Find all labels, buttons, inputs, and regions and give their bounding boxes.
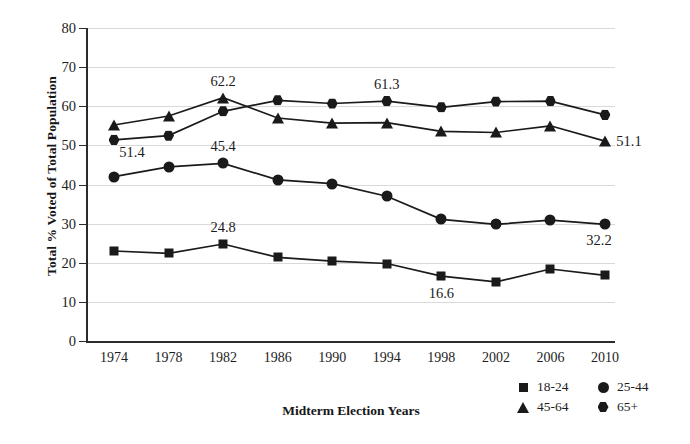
- legend-item-45-64[interactable]: 45-64: [516, 399, 596, 415]
- data-point-marker: [163, 111, 175, 122]
- x-tick-label: 1994: [373, 350, 401, 366]
- legend-label: 65+: [617, 399, 638, 415]
- data-point-marker: [218, 158, 229, 169]
- y-tick-label: 70: [62, 59, 77, 76]
- y-tick-mark: [79, 302, 86, 303]
- series-lines: [86, 28, 615, 343]
- y-tick-label: 0: [69, 333, 76, 350]
- data-point-marker: [328, 257, 337, 266]
- y-tick-mark: [79, 67, 86, 68]
- x-tick-label: 1982: [209, 350, 237, 366]
- x-tick-label: 1978: [155, 350, 183, 366]
- data-point-marker: [219, 239, 228, 248]
- series-line: [114, 244, 605, 282]
- x-tick-label: 1998: [427, 350, 455, 366]
- data-point-marker: [382, 259, 391, 268]
- y-tick-mark: [79, 145, 86, 146]
- data-point-marker: [546, 265, 555, 274]
- series-line: [114, 100, 605, 139]
- data-point-marker: [600, 219, 611, 230]
- data-point-marker: [273, 253, 282, 262]
- y-tick-mark: [79, 106, 86, 107]
- data-point-label: 51.4: [119, 143, 144, 160]
- data-point-marker: [163, 161, 174, 172]
- data-point-marker: [491, 277, 500, 286]
- x-tick-label: 1990: [318, 350, 346, 366]
- circle-marker-icon: [596, 382, 610, 393]
- legend-item-65plus[interactable]: 65+: [596, 399, 638, 415]
- x-tick-label: 1986: [264, 350, 292, 366]
- data-point-label: 51.1: [616, 133, 641, 150]
- legend-row: 18-2425-44: [516, 377, 690, 397]
- data-point-label: 24.8: [210, 218, 235, 235]
- data-point-marker: [490, 219, 501, 230]
- legend-label: 25-44: [617, 379, 649, 395]
- y-tick-label: 50: [62, 137, 77, 154]
- chart-legend: 18-2425-4445-6465+: [516, 377, 690, 417]
- data-point-marker: [327, 178, 338, 189]
- y-tick-mark: [79, 185, 86, 186]
- hexagon-marker-icon: [596, 402, 610, 413]
- y-tick-mark: [79, 224, 86, 225]
- y-tick-label: 40: [62, 176, 77, 193]
- legend-label: 18-24: [537, 379, 569, 395]
- data-point-label: 16.6: [429, 285, 454, 302]
- data-point-label: 32.2: [586, 232, 611, 249]
- y-tick-mark: [79, 341, 86, 342]
- x-tick-label: 2006: [536, 350, 564, 366]
- data-point-marker: [490, 127, 502, 138]
- chart-figure: Total % Voted of Total Population 010203…: [0, 0, 690, 444]
- data-point-marker: [164, 249, 173, 258]
- square-marker-icon: [516, 383, 530, 392]
- data-point-marker: [545, 215, 556, 226]
- data-point-marker: [437, 272, 446, 281]
- data-point-label: 62.2: [210, 72, 235, 89]
- triangle-marker-icon: [516, 402, 530, 413]
- y-tick-label: 10: [62, 293, 77, 310]
- plot-area: 01020304050607080 51.462.245.424.861.351…: [86, 28, 615, 343]
- data-point-marker: [381, 117, 393, 128]
- data-point-label: 61.3: [374, 76, 399, 93]
- legend-label: 45-64: [537, 399, 569, 415]
- series-line: [114, 98, 605, 142]
- x-tick-label: 2010: [591, 350, 619, 366]
- y-tick-label: 20: [62, 254, 77, 271]
- data-point-marker: [436, 214, 447, 225]
- x-tick-label: 1974: [100, 350, 128, 366]
- data-point-marker: [110, 247, 119, 256]
- data-point-label: 45.4: [210, 138, 235, 155]
- y-tick-mark: [79, 28, 86, 29]
- data-point-marker: [109, 171, 120, 182]
- series-line: [114, 163, 605, 224]
- data-point-marker: [601, 271, 610, 280]
- data-point-marker: [272, 174, 283, 185]
- y-axis-title: Total % Voted of Total Population: [44, 26, 60, 326]
- y-tick-label: 30: [62, 215, 77, 232]
- y-tick-label: 80: [62, 20, 77, 37]
- data-point-marker: [435, 126, 447, 137]
- legend-item-18-24[interactable]: 18-24: [516, 379, 596, 395]
- y-tick-label: 60: [62, 98, 77, 115]
- data-point-marker: [217, 92, 229, 103]
- y-tick-mark: [79, 263, 86, 264]
- data-point-marker: [544, 120, 556, 131]
- data-point-marker: [599, 136, 611, 147]
- x-tick-label: 2002: [482, 350, 510, 366]
- data-point-marker: [108, 120, 120, 131]
- data-point-marker: [381, 191, 392, 202]
- legend-row: 45-6465+: [516, 397, 690, 417]
- legend-item-25-44[interactable]: 25-44: [596, 379, 649, 395]
- data-point-marker: [326, 118, 338, 129]
- data-point-marker: [272, 112, 284, 123]
